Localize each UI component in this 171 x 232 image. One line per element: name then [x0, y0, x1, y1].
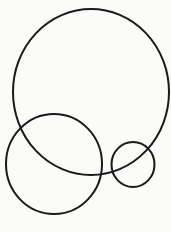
overlapping-circles-diagram — [0, 0, 171, 232]
large-circle — [13, 9, 169, 175]
small-circle — [112, 142, 155, 187]
